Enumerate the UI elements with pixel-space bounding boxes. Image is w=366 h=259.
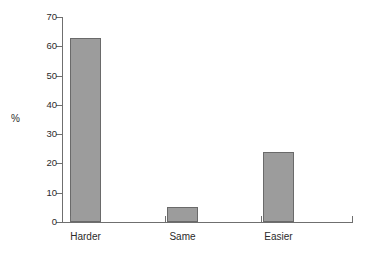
x-axis-label-same: Same	[143, 232, 223, 242]
bar-chart: % 010203040506070 HarderSameEasier	[0, 0, 366, 259]
y-axis-tick-label: 40	[17, 100, 57, 110]
x-axis-line	[62, 222, 353, 223]
y-axis-tick-label: 30	[17, 129, 57, 139]
y-axis-line	[62, 17, 63, 223]
y-axis-tick-label: 70	[17, 12, 57, 22]
y-axis-tick-label: 0	[17, 217, 57, 227]
x-axis-tick	[352, 216, 353, 222]
x-axis-label-harder: Harder	[46, 232, 126, 242]
bar-easier[interactable]	[263, 152, 294, 222]
x-axis-tick	[261, 216, 262, 222]
x-axis-tick	[165, 216, 166, 222]
y-axis-tick-label: 50	[17, 71, 57, 81]
y-axis-tick-label: 10	[17, 188, 57, 198]
y-axis-tick-label: 60	[17, 41, 57, 51]
x-axis-label-easier: Easier	[239, 232, 319, 242]
y-axis-tick-label: 20	[17, 158, 57, 168]
x-axis-tick	[70, 216, 71, 222]
bar-same[interactable]	[167, 207, 198, 222]
bar-harder[interactable]	[70, 38, 101, 223]
y-axis-title: %	[11, 114, 20, 124]
